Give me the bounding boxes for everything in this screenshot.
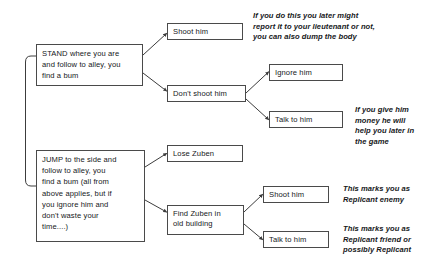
note-shoot-him-line-1: If you do this you later might [253,11,438,22]
node-talk-to-him-bottom-label: Talk to him [269,235,323,245]
node-shoot-him-bottom[interactable]: Shoot him [263,186,329,203]
node-talk-to-him-bottom[interactable]: Talk to him [263,231,329,248]
connector-jump-to-find-zuben [145,200,167,212]
note-shoot-him-line-2: report it to your lieutenant or not, [253,22,438,33]
root-bracket-connector [26,56,37,186]
node-shoot-him-top-label: Shoot him [173,27,237,37]
node-stand-line-2: and follow to alley, you [42,59,137,70]
connector-dont-shoot-to-ignore-him [246,72,269,93]
node-lose-zuben[interactable]: Lose Zuben [167,145,243,162]
node-find-zuben-line-2: old building [173,219,238,229]
node-find-zuben-line-1: Find Zuben in [173,209,238,219]
node-lose-zuben-label: Lose Zuben [173,149,237,159]
connector-find-zuben-to-shoot-him [244,195,263,213]
connector-stand-to-shoot-him [143,34,167,56]
node-stand[interactable]: STAND where you are and follow to alley,… [36,44,143,86]
node-talk-to-him-top[interactable]: Talk to him [269,111,343,128]
node-jump-line-5: you ignore him and [42,199,139,210]
connector-stand-to-dont-shoot-him [143,73,167,91]
node-talk-to-him-top-label: Talk to him [275,115,337,125]
note-shoot-him-line-3: you can also dump the body [253,32,438,43]
flowchart-canvas: STAND where you are and follow to alley,… [0,0,441,271]
node-shoot-him-bottom-label: Shoot him [269,190,323,200]
note-talk-to-him-line-3: help you later in [355,126,441,137]
note-shoot-him: If you do this you later might report it… [253,11,438,43]
node-dont-shoot-him-label: Don't shoot him [173,89,240,99]
node-jump-line-3: find a bum (all from [42,176,139,187]
node-shoot-him-top[interactable]: Shoot him [167,23,243,40]
node-jump-line-1: JUMP to the side and [42,154,139,165]
node-jump[interactable]: JUMP to the side and follow to alley, yo… [36,150,145,242]
note-replicant-friend-line-2: Replicant friend or [343,235,441,246]
note-talk-to-him-line-1: If you give him [355,105,441,116]
connector-jump-to-lose-zuben [145,154,167,168]
node-ignore-him[interactable]: Ignore him [269,64,343,81]
note-replicant-friend-line-1: This marks you as [343,224,441,235]
node-stand-line-1: STAND where you are [42,48,137,59]
note-replicant-enemy: This marks you as Replicant enemy [343,184,439,205]
node-stand-line-3: find a bum [42,70,137,81]
node-dont-shoot-him[interactable]: Don't shoot him [167,85,246,102]
connector-dont-shoot-to-talk-to-him [246,99,269,120]
note-talk-to-him: If you give him money he will help you l… [355,105,441,147]
note-talk-to-him-line-4: the game [355,137,441,148]
note-replicant-enemy-line-2: Replicant enemy [343,195,439,206]
node-find-zuben[interactable]: Find Zuben in old building [167,205,244,235]
note-talk-to-him-line-2: money he will [355,116,441,127]
note-replicant-friend: This marks you as Replicant friend or po… [343,224,441,256]
connector-find-zuben-to-talk-to-him [244,224,263,240]
node-jump-line-7: time....) [42,221,139,232]
node-jump-line-4: above applies, but if [42,188,139,199]
node-jump-line-2: follow to alley, you [42,165,139,176]
note-replicant-friend-line-3: possibly Replicant [343,245,441,256]
node-jump-line-6: don't waste your [42,210,139,221]
note-replicant-enemy-line-1: This marks you as [343,184,439,195]
node-ignore-him-label: Ignore him [275,68,337,78]
